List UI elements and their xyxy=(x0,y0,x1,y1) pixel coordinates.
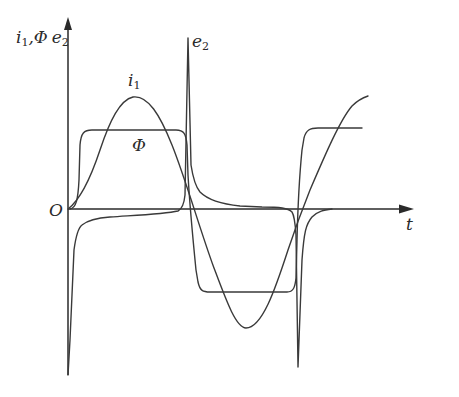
phi-label: Φ xyxy=(132,137,146,154)
i1-label: i1 xyxy=(128,72,140,91)
y-label-e: e xyxy=(52,27,62,47)
e2-label-base: e xyxy=(192,31,202,51)
waveform-diagram: i1,Φe2 O t i1 Φ e2 xyxy=(0,0,459,397)
origin-label: O xyxy=(49,202,63,219)
x-axis-arrow-icon xyxy=(399,205,414,214)
phi-curve xyxy=(70,128,362,292)
e2-curve xyxy=(68,38,332,375)
y-axis-label: i1,Φe2 xyxy=(16,29,69,48)
i1-curve xyxy=(68,96,368,328)
x-axis-label: t xyxy=(406,216,413,233)
i1-label-subscript: 1 xyxy=(133,79,140,92)
y-label-phi: ,Φ xyxy=(28,27,47,47)
y-label-e-subscript: 2 xyxy=(62,36,69,49)
e2-label: e2 xyxy=(192,33,209,52)
diagram-svg xyxy=(0,0,459,397)
e2-label-subscript: 2 xyxy=(202,40,209,53)
